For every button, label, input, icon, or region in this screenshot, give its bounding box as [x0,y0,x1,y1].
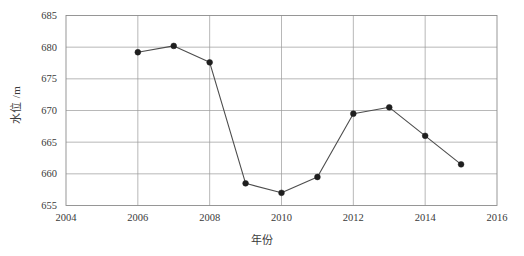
data-point [207,59,213,65]
data-point [135,49,141,55]
y-tick-label: 670 [41,105,57,116]
x-tick-label: 2006 [127,212,148,223]
series-markers-water-level [135,43,464,196]
x-tick-label: 2012 [343,212,364,223]
x-tick-label: 2004 [56,212,78,223]
data-point [279,190,285,196]
data-point [458,161,464,167]
x-tick-label: 2014 [415,212,437,223]
data-point [386,104,392,110]
x-axis-tick-labels: 2004200620082010201220142016 [56,212,508,223]
data-point [350,111,356,117]
y-tick-label: 665 [41,137,57,148]
y-tick-label: 655 [41,200,57,211]
data-point [171,43,177,49]
series-line-water-level [138,46,461,193]
data-point [422,133,428,139]
y-tick-label: 675 [41,73,57,84]
data-point [243,180,249,186]
x-tick-label: 2010 [271,212,292,223]
chart-canvas: 655660665670675680685 200420062008201020… [0,0,524,256]
y-axis-tick-labels: 655660665670675680685 [41,10,57,211]
x-tick-label: 2016 [487,212,508,223]
x-tick-label: 2008 [199,212,220,223]
data-point [315,174,321,180]
water-level-line-chart: 655660665670675680685 200420062008201020… [0,0,524,256]
y-tick-label: 685 [41,10,57,21]
y-tick-label: 660 [41,168,57,179]
y-tick-label: 680 [41,42,57,53]
